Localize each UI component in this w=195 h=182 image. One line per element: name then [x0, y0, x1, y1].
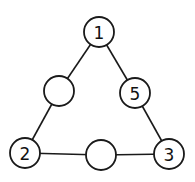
node-label: 1	[94, 23, 105, 43]
node-bottom-left: 2	[10, 138, 40, 168]
node-left-mid[interactable]	[44, 76, 74, 106]
node-bottom-mid[interactable]	[86, 140, 116, 170]
node-label: 3	[164, 145, 175, 165]
node-right-mid: 5	[120, 78, 150, 108]
node-label: 2	[20, 144, 31, 164]
triangle-diagram: 1 5 2 3	[0, 0, 195, 182]
node-bottom-right: 3	[154, 139, 184, 169]
node-label: 5	[130, 84, 141, 104]
node-circle-empty[interactable]	[44, 76, 74, 106]
node-circle-empty[interactable]	[86, 140, 116, 170]
node-top: 1	[84, 17, 114, 47]
